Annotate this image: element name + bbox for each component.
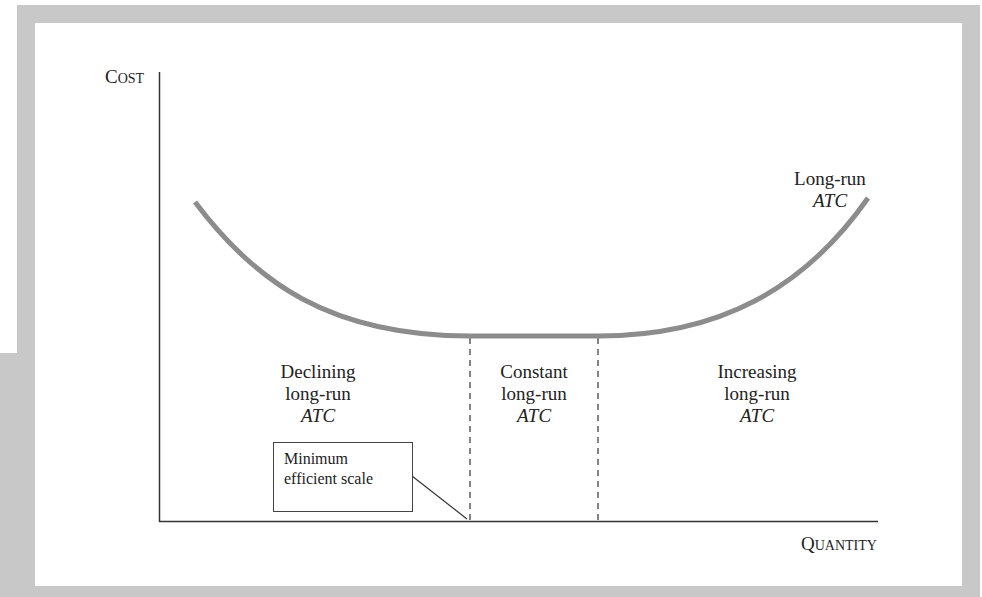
- callout-line2: efficient scale: [284, 469, 402, 489]
- frame-border: [0, 5, 980, 597]
- curve-label-line1: Long-run: [780, 168, 880, 190]
- y-axis-label: COST: [105, 66, 144, 90]
- region-constant-line3: ATC: [474, 405, 594, 427]
- curve-label-line2: ATC: [780, 190, 880, 212]
- y-axis-label-initial: C: [105, 66, 118, 87]
- region-declining-line1: Declining: [258, 361, 378, 383]
- region-increasing-line1: Increasing: [697, 361, 817, 383]
- region-declining-line2: long-run: [258, 383, 378, 405]
- region-declining-label: Declining long-run ATC: [258, 361, 378, 427]
- diagram-canvas: [0, 0, 982, 597]
- region-constant-label: Constant long-run ATC: [474, 361, 594, 427]
- long-run-atc-curve: [195, 198, 868, 336]
- region-constant-line1: Constant: [474, 361, 594, 383]
- minimum-efficient-scale-callout: Minimum efficient scale: [273, 442, 413, 512]
- x-axis-label: QUANTITY: [801, 533, 877, 557]
- x-axis-label-initial: Q: [801, 533, 815, 554]
- region-declining-line3: ATC: [258, 405, 378, 427]
- curve-label: Long-run ATC: [780, 168, 880, 212]
- y-axis-label-rest: OST: [118, 71, 144, 86]
- region-increasing-line3: ATC: [697, 405, 817, 427]
- callout-connector-line: [412, 476, 467, 519]
- region-constant-line2: long-run: [474, 383, 594, 405]
- region-increasing-label: Increasing long-run ATC: [697, 361, 817, 427]
- region-increasing-line2: long-run: [697, 383, 817, 405]
- callout-line1: Minimum: [284, 449, 402, 469]
- x-axis-label-rest: UANTITY: [815, 538, 877, 553]
